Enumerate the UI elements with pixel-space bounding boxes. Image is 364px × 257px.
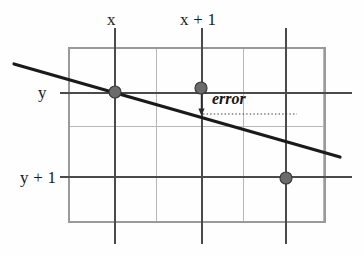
pixel-dot-x-y — [109, 86, 121, 98]
axis-label-y: y — [38, 84, 47, 101]
error-annotation-label: error — [212, 91, 246, 107]
axis-label-x: x — [107, 11, 116, 28]
pixel-dot-x-plus-1-y — [195, 82, 207, 94]
error-arrow-head — [198, 109, 204, 117]
axis-label-x-plus-1: x + 1 — [180, 11, 216, 28]
error-arrow — [198, 91, 204, 116]
axis-label-y-plus-1: y + 1 — [20, 169, 56, 186]
diagram-canvas — [0, 0, 364, 257]
bresenham-error-diagram: x x + 1 y y + 1 error — [0, 0, 364, 257]
ideal-line — [14, 64, 340, 157]
pixel-dot-x-plus-2-y-plus-1 — [280, 172, 292, 184]
grid-dark-lines — [60, 28, 352, 244]
